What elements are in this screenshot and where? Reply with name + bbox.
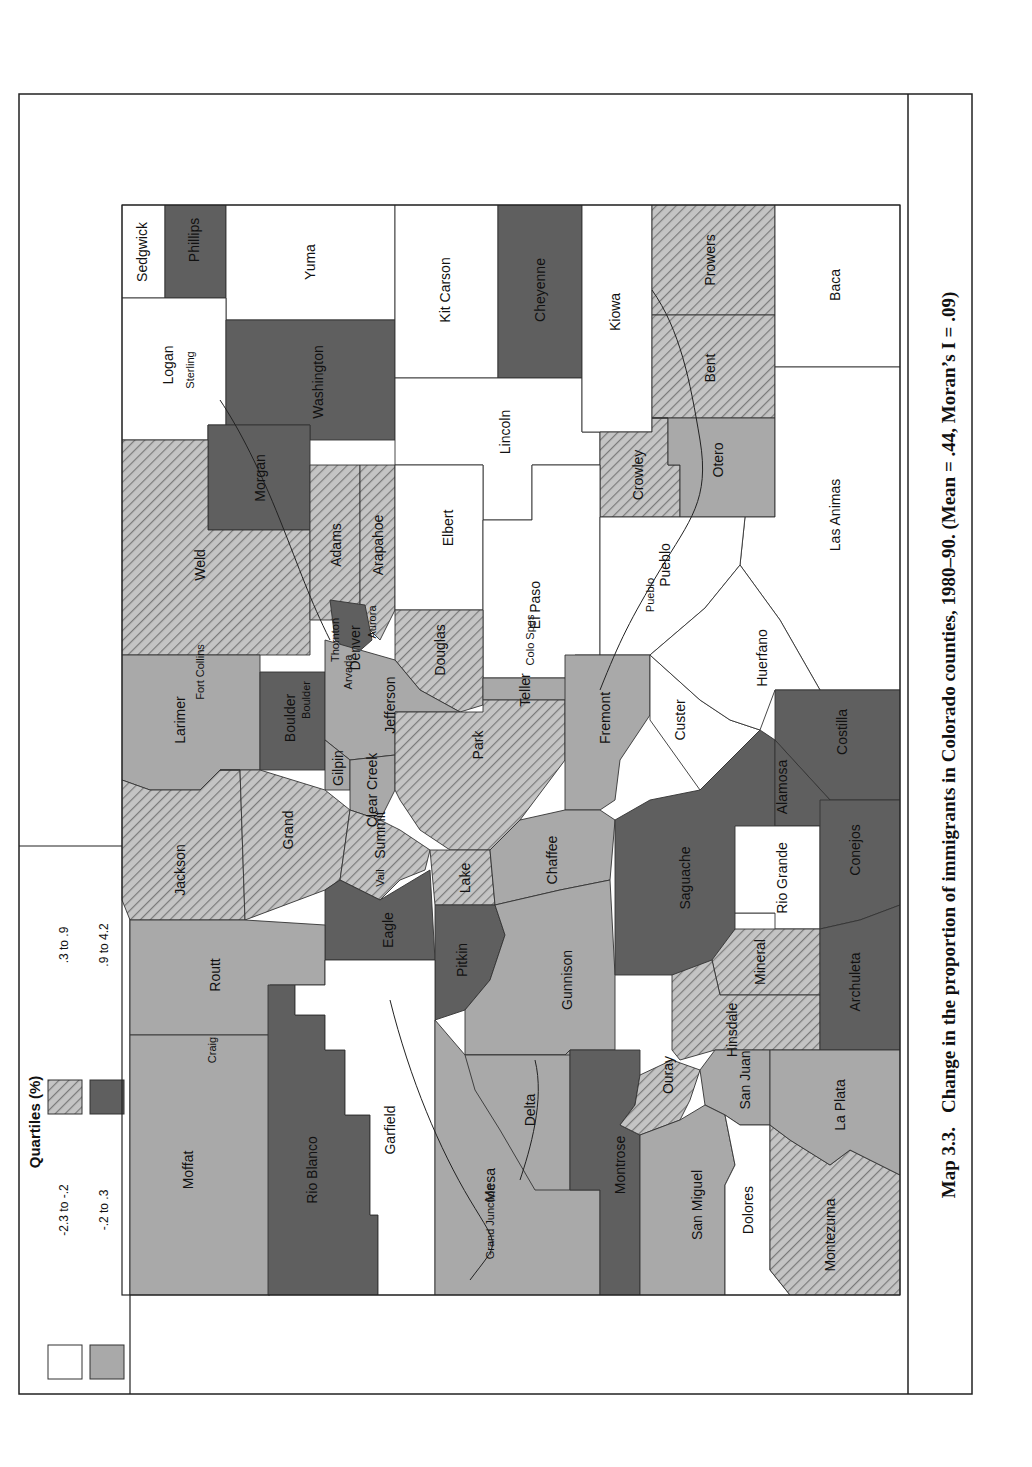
- county-label: Montezuma: [822, 1198, 838, 1271]
- county-elbert: [395, 465, 483, 610]
- county-label: Rio Grande: [774, 842, 790, 914]
- city-label: Arvada: [342, 654, 354, 690]
- county-label: Mineral: [752, 939, 768, 985]
- county-label: Eagle: [380, 912, 396, 948]
- legend-label-q3: .3 to .9: [57, 926, 71, 963]
- county-label: Routt: [207, 958, 223, 992]
- county-label: Jefferson: [382, 676, 398, 733]
- county-moffat: [130, 1035, 270, 1295]
- county-label: Phillips: [186, 218, 202, 262]
- county-label: Delta: [522, 1093, 538, 1126]
- county-label: Larimer: [172, 696, 188, 744]
- legend-swatch-q3: [48, 1080, 82, 1114]
- county-san-miguel: [640, 1105, 735, 1295]
- caption-number: Map 3.3.: [938, 1127, 959, 1198]
- county-label: Gilpin: [330, 750, 346, 786]
- legend-label-q1: -2.3 to -.2: [57, 1184, 71, 1236]
- city-label: Aurora: [366, 605, 378, 639]
- county-label: Grand: [280, 811, 296, 850]
- county-label: Rio Blanco: [304, 1136, 320, 1204]
- county-label: Sedgwick: [134, 221, 150, 282]
- county-label: Moffat: [180, 1151, 196, 1190]
- county-label: Park: [470, 730, 486, 760]
- city-label: Vail: [374, 869, 386, 887]
- county-label: Gunnison: [559, 950, 575, 1010]
- county-label: Dolores: [740, 1186, 756, 1234]
- county-label: Kit Carson: [437, 257, 453, 322]
- county-label: Weld: [192, 549, 208, 581]
- county-label: Montrose: [612, 1136, 628, 1195]
- county-label: Yuma: [302, 244, 318, 280]
- county-label: Bent: [702, 353, 718, 382]
- county-label: Conejos: [847, 824, 863, 875]
- county-label: Lake: [457, 863, 473, 894]
- legend-title: Quartiles (%): [26, 1076, 43, 1169]
- county-label: Costilla: [834, 709, 850, 755]
- county-label: Otero: [710, 442, 726, 477]
- caption-text: Change in the proportion of immigrants i…: [938, 292, 960, 1113]
- county-label: Garfield: [382, 1105, 398, 1154]
- county-label: Saguache: [677, 846, 693, 909]
- city-label: Fort Collins: [194, 644, 206, 700]
- county-label: Pitkin: [454, 943, 470, 977]
- county-label: Douglas: [432, 624, 448, 675]
- city-label: Pueblo: [644, 578, 656, 612]
- county-label: Las Animas: [827, 479, 843, 551]
- city-label: Craig: [206, 1037, 218, 1063]
- city-label: Colo Spgs: [524, 614, 536, 665]
- city-label: Thornton: [329, 618, 341, 662]
- county-label: Boulder: [282, 694, 298, 743]
- county-label: Washington: [310, 345, 326, 418]
- county-label: Prowers: [702, 234, 718, 285]
- legend-swatch-q2: [90, 1345, 124, 1379]
- county-label: La Plata: [832, 1079, 848, 1131]
- county-label: San Juan: [737, 1050, 753, 1109]
- map-page: Quartiles (%) -2.3 to -.2 -.2 to .3 .3 t…: [0, 0, 1032, 1467]
- county-label: Teller: [517, 673, 533, 707]
- legend-label-q2: -.2 to .3: [97, 1189, 111, 1230]
- county-label: Ouray: [660, 1056, 676, 1094]
- city-label: Grand Junction: [484, 1185, 496, 1260]
- county-label: Adams: [328, 523, 344, 567]
- county-label: Cheyenne: [532, 258, 548, 322]
- legend-swatch-q4: [90, 1080, 124, 1114]
- county-label: San Miguel: [689, 1170, 705, 1240]
- legend-label-q4: .9 to 4.2: [97, 923, 111, 967]
- county-label: Jackson: [172, 844, 188, 895]
- county-label: Summit: [372, 811, 388, 859]
- city-label: Sterling: [184, 351, 196, 388]
- county-label: Chaffee: [544, 835, 560, 884]
- county-label: Arapahoe: [370, 514, 386, 575]
- city-label: Boulder: [300, 681, 312, 719]
- county-label: Kiowa: [607, 293, 623, 331]
- legend-swatch-q1: [48, 1345, 82, 1379]
- county-label: Logan: [160, 346, 176, 385]
- choropleth-map: Quartiles (%) -2.3 to -.2 -.2 to .3 .3 t…: [0, 0, 1032, 1467]
- county-layer: [122, 205, 900, 1295]
- county-label: Baca: [827, 269, 843, 301]
- county-label: Crowley: [630, 450, 646, 501]
- county-label: Hinsdale: [724, 1003, 740, 1058]
- county-label: Alamosa: [774, 760, 790, 815]
- county-label: Fremont: [597, 692, 613, 744]
- county-label: Pueblo: [657, 543, 673, 587]
- county-label: Huerfano: [754, 629, 770, 687]
- map-caption: Map 3.3.Change in the proportion of immi…: [938, 292, 960, 1198]
- county-label: Custer: [672, 699, 688, 741]
- county-label: Morgan: [252, 454, 268, 501]
- county-label: Lincoln: [497, 410, 513, 454]
- county-label: Archuleta: [847, 952, 863, 1011]
- county-label: Elbert: [440, 510, 456, 547]
